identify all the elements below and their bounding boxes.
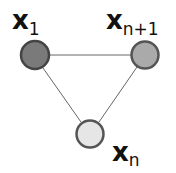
triangle-graph-diagram: x1 xn+1 xn [0,0,176,173]
node-xn1 [132,42,159,69]
edge-xn1-xn [99,67,137,122]
node-xn [77,121,104,148]
label-xn: xn [112,137,140,170]
label-xn1: xn+1 [106,5,159,39]
edges [43,55,137,122]
node-x1 [21,41,49,69]
edge-x1-xn [43,68,81,122]
label-x1: x1 [12,5,40,39]
nodes [21,41,159,148]
